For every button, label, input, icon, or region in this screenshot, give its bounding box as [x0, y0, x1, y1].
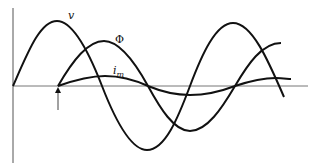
- waveform-diagram: v Φ im: [0, 0, 319, 167]
- current-label: im: [113, 64, 125, 79]
- switching-instant-arrow: [55, 87, 61, 110]
- flux-label: Φ: [115, 33, 124, 46]
- voltage-label: v: [68, 9, 75, 22]
